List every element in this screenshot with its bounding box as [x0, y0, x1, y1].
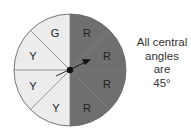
note-line-2: angles: [134, 50, 190, 64]
label-g: G: [51, 27, 60, 39]
label-r1: R: [83, 27, 91, 39]
note-line-4: 45°: [134, 77, 190, 91]
label-y1: Y: [52, 102, 60, 114]
label-r3: R: [103, 78, 111, 90]
label-r2: R: [103, 50, 111, 62]
note-line-1: All central: [134, 36, 190, 50]
label-y3: Y: [29, 50, 37, 62]
label-y2: Y: [29, 80, 37, 92]
angle-note: All central angles are 45°: [134, 36, 190, 90]
center-pivot: [67, 67, 73, 73]
label-r4: R: [83, 102, 91, 114]
note-line-3: are: [134, 63, 190, 77]
